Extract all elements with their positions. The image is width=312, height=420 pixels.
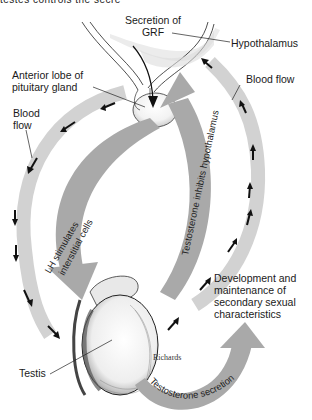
hypothalamus-label: Hypothalamus (231, 37, 298, 49)
development-label: Development and maintenance of secondary… (214, 272, 296, 320)
development-line3: secondary sexual (214, 296, 296, 308)
blood-flow-left-line2: flow (13, 119, 40, 131)
grf-label-line2: GRF (125, 26, 181, 38)
testis-label: Testis (19, 367, 46, 379)
anterior-lobe-label: Anterior lobe of pituitary gland (12, 69, 83, 93)
blood-flow-right-label: Blood flow (246, 73, 294, 85)
anterior-lobe-line1: Anterior lobe of (12, 69, 83, 81)
development-line1: Development and (214, 272, 296, 284)
testis-illustration (74, 276, 158, 395)
grf-label: Secretion of GRF (125, 14, 181, 38)
lh-stimulates-arrow: LH stimulates interstitial cells (42, 118, 160, 300)
artist-credit: Richards (153, 353, 181, 362)
development-line4: characteristics (214, 308, 296, 320)
blood-flow-left-label: Blood flow (13, 107, 40, 131)
grf-label-line1: Secretion of (125, 14, 181, 26)
anterior-lobe-line2: pituitary gland (12, 81, 83, 93)
blood-flow-left-line1: Blood (13, 107, 40, 119)
development-line2: maintenance of (214, 284, 296, 296)
